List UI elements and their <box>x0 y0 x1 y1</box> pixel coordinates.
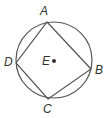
label-d: D <box>4 55 13 69</box>
label-e: E <box>42 54 51 68</box>
center-point <box>52 59 56 63</box>
inscribed-quadrilateral-diagram: A B C D E <box>0 0 110 118</box>
label-c: C <box>43 102 52 116</box>
label-b: B <box>95 63 103 77</box>
label-a: A <box>39 4 48 18</box>
